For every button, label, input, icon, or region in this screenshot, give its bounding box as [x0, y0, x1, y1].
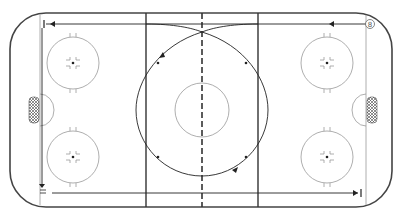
- rink-diagram: 8: [0, 0, 403, 214]
- rink-boards: [10, 13, 392, 207]
- goal-net-left: [29, 97, 39, 123]
- neutral-dot: [245, 62, 248, 65]
- goal-net-right: [367, 97, 377, 123]
- neutral-dot: [157, 62, 160, 65]
- svg-text:8: 8: [368, 21, 372, 29]
- start-marker: 8: [366, 20, 375, 29]
